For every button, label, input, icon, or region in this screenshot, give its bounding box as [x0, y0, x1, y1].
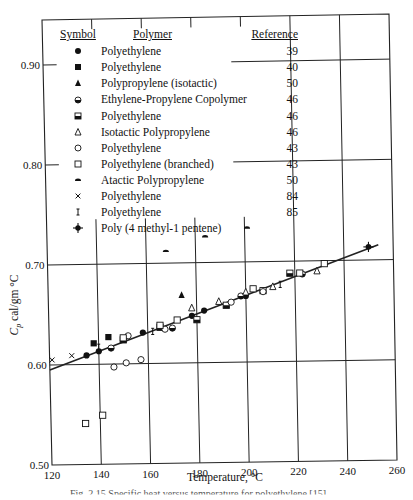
- open-circle-icon: [72, 142, 84, 154]
- legend-reference: 40: [248, 59, 298, 75]
- legend-symbol: [58, 110, 98, 122]
- legend-row: Polyethylene43: [58, 140, 298, 156]
- filled-triangle-icon: [72, 77, 84, 89]
- x-tick-label: 240: [339, 465, 356, 477]
- legend-reference: 46: [248, 124, 298, 140]
- open-square-marker: [321, 261, 327, 267]
- legend-polymer-name: Polyethylene: [98, 59, 248, 75]
- half-filled-circle-icon: [72, 94, 84, 106]
- cross-x-marker: [76, 194, 81, 199]
- filled-square-marker: [105, 334, 111, 340]
- filled-square-icon: [72, 61, 84, 73]
- legend-reference: 43: [248, 140, 298, 156]
- legend-row: Poly (4 methyl-1 pentene): [58, 220, 298, 236]
- half-filled-square-marker: [75, 113, 81, 119]
- filled-square-marker: [91, 340, 97, 346]
- half-disc-marker: [75, 179, 81, 181]
- legend-symbol: [58, 142, 98, 154]
- filled-circle-marker: [201, 307, 207, 313]
- open-circle-marker: [75, 145, 81, 151]
- half-disc-marker: [163, 250, 169, 252]
- filled-circle-marker: [140, 329, 146, 335]
- legend-row: Polyethylene (branched)43: [58, 156, 298, 172]
- legend-rows: Polyethylene39Polyethylene40Polypropylen…: [58, 43, 298, 236]
- legend-reference: 39: [248, 43, 298, 59]
- legend-reference: 50: [248, 172, 298, 188]
- i-beam-marker: [77, 209, 80, 215]
- legend-header-polymer: Polymer: [98, 26, 238, 42]
- half-filled-square-icon: [72, 110, 84, 122]
- cross-x-icon: [72, 190, 84, 202]
- legend-reference: 50: [248, 75, 298, 91]
- legend-polymer-name: Polyethylene (branched): [98, 156, 248, 172]
- grid-line-vertical: [339, 15, 347, 461]
- y-axis-ticks: 0.500.600.700.800.90: [21, 59, 50, 471]
- y-tick-label: 0.60: [28, 359, 48, 371]
- legend-polymer-name: Polyethylene: [98, 108, 248, 124]
- x-axis-label: Temperature, °C: [187, 471, 263, 484]
- specific-heat-chart: 0.500.600.700.800.90 1201401601802002202…: [0, 0, 413, 500]
- open-square-marker: [120, 335, 126, 341]
- legend-row: Atactic Polypropylene50: [58, 172, 298, 188]
- legend-row: Polyethylene40: [58, 59, 298, 75]
- legend-reference: 43: [248, 156, 298, 172]
- legend-row: Ethylene-Propylene Copolymer46: [58, 91, 298, 107]
- y-tick-label: 0.80: [23, 159, 43, 171]
- legend-symbol: [58, 77, 98, 89]
- legend-row: Polyethylene85: [58, 204, 298, 220]
- legend-header: Symbol Polymer Reference: [58, 26, 298, 42]
- legend-row: Polypropylene (isotactic)50: [58, 75, 298, 91]
- legend-reference: 84: [248, 188, 298, 204]
- filled-circle-marker: [83, 352, 89, 358]
- circle-plus-icon: [72, 222, 84, 234]
- legend-symbol: [58, 158, 98, 170]
- circle-plus-marker: [73, 223, 83, 233]
- legend-polymer-name: Isotactic Polypropylene: [98, 124, 248, 140]
- open-triangle-icon: [72, 126, 84, 138]
- legend-polymer-name: Ethylene-Propylene Copolymer: [98, 91, 248, 107]
- legend-symbol: [58, 174, 98, 186]
- legend: Symbol Polymer Reference Polyethylene39P…: [58, 26, 298, 236]
- legend-polymer-name: Polyethylene: [98, 188, 248, 204]
- cross-x-marker: [69, 353, 74, 358]
- legend-polymer-name: Polyethylene: [98, 204, 248, 220]
- open-square-marker: [82, 420, 88, 426]
- legend-symbol: [58, 126, 98, 138]
- legend-row: Polyethylene39: [58, 43, 298, 59]
- open-square-icon: [72, 158, 84, 170]
- open-triangle-marker: [75, 128, 81, 135]
- open-circle-marker: [228, 299, 234, 305]
- legend-symbol: [58, 45, 98, 57]
- open-square-marker: [157, 322, 163, 328]
- open-circle-marker: [260, 289, 266, 295]
- open-square-marker: [297, 270, 303, 276]
- legend-header-reference: Reference: [238, 26, 298, 42]
- x-tick-label: 120: [44, 469, 61, 481]
- filled-square-marker: [75, 64, 81, 70]
- legend-symbol: [58, 94, 98, 106]
- x-tick-label: 220: [290, 465, 307, 477]
- open-square-marker: [250, 286, 256, 292]
- filled-triangle-marker: [75, 80, 81, 87]
- legend-polymer-name: Polypropylene (isotactic): [98, 75, 248, 91]
- open-circle-marker: [123, 360, 129, 366]
- half-filled-square-marker: [287, 270, 293, 276]
- legend-row: Polyethylene84: [58, 188, 298, 204]
- legend-reference: 46: [248, 91, 298, 107]
- legend-symbol: [58, 190, 98, 202]
- open-triangle-marker: [216, 298, 222, 305]
- legend-row: Isotactic Polypropylene46: [58, 124, 298, 140]
- grid-line-vertical: [145, 218, 150, 463]
- grid-line-vertical: [244, 217, 249, 462]
- half-filled-circle-marker: [108, 345, 114, 351]
- legend-reference: 46: [248, 108, 298, 124]
- half-filled-circle-marker: [75, 97, 81, 103]
- open-triangle-marker: [189, 304, 195, 311]
- grid-line-horizontal: [50, 360, 395, 365]
- grid-line-vertical: [195, 218, 200, 463]
- legend-symbol: [58, 222, 98, 234]
- y-tick-label: 0.70: [25, 259, 45, 271]
- open-triangle-marker: [243, 288, 249, 295]
- legend-polymer-name: Atactic Polypropylene: [98, 172, 248, 188]
- filled-triangle-marker: [178, 291, 184, 298]
